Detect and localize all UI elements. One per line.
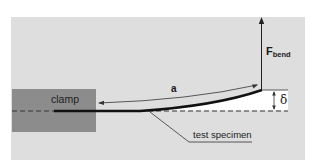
arc-length-label: a [171,84,177,94]
deflection-label: δ [280,94,287,106]
clamp-label: clamp [51,94,79,105]
background-panel [11,17,305,160]
force-label: Fbend [266,46,291,59]
test-specimen-label: test specimen [193,130,252,140]
cantilever-diagram [0,0,315,167]
force-symbol: F [266,45,273,57]
force-subscript: bend [273,50,291,59]
